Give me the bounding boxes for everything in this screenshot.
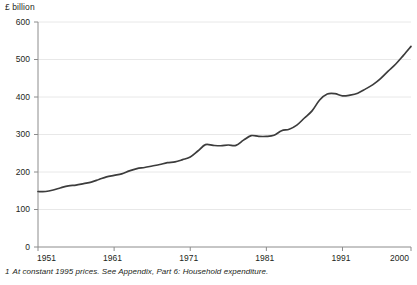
y-axis-tick-label: 300: [4, 129, 30, 139]
footnote: 1At constant 1995 prices. See Appendix, …: [5, 267, 268, 276]
x-axis-ticks: [38, 247, 411, 251]
x-axis-tick-label: 1971: [179, 253, 198, 263]
x-axis-tick-label: 2000: [390, 253, 409, 263]
y-axis-tick-label: 500: [4, 54, 30, 64]
y-axis-tick-label: 400: [4, 92, 30, 102]
y-axis-tick-label: 0: [4, 242, 30, 252]
footnote-marker: 1: [5, 267, 10, 276]
y-axis-tick-label: 600: [4, 17, 30, 27]
x-axis-tick-label: 1991: [331, 253, 350, 263]
x-axis-tick-label: 1961: [103, 253, 122, 263]
series-line-household-expenditure: [38, 46, 411, 191]
line-chart-plot: [0, 0, 417, 285]
x-axis-tick-label: 1951: [37, 253, 56, 263]
footnote-text: At constant 1995 prices. See Appendix, P…: [13, 267, 269, 276]
y-axis-tick-label: 200: [4, 167, 30, 177]
x-axis-tick-label: 1981: [255, 253, 274, 263]
y-axis-tick-label: 100: [4, 204, 30, 214]
chart-figure: £ billion 0100200300400500600 1951196119…: [0, 0, 417, 285]
y-axis-ticks: [34, 22, 38, 247]
